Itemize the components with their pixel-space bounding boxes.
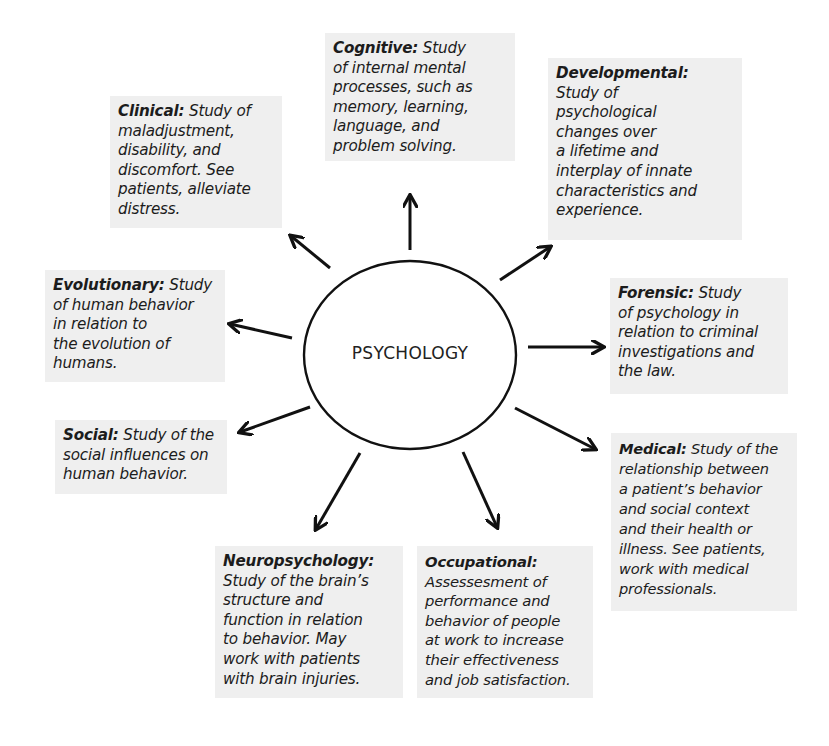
branch-text: relationship between xyxy=(619,459,789,479)
branch-term: Evolutionary: xyxy=(53,276,165,294)
branch-text: experience. xyxy=(556,201,734,221)
branch-term: Developmental: xyxy=(556,64,689,82)
branch-box-neuropsychology: Neuropsychology: Study of the brain’s st… xyxy=(215,546,403,698)
branch-text: of human behavior xyxy=(53,296,217,316)
branch-text: Study of the brain’s xyxy=(223,572,395,592)
branch-text: the law. xyxy=(618,362,780,382)
branch-box-occupational: Occupational: Assessesment of performanc… xyxy=(417,546,593,698)
branch-text: psychological xyxy=(556,103,734,123)
branch-text: social influences on xyxy=(63,446,219,466)
branch-text: the evolution of xyxy=(53,335,217,355)
arrow-to-clinical xyxy=(291,236,330,268)
center-label: PSYCHOLOGY xyxy=(310,343,510,363)
branch-text: distress. xyxy=(118,200,274,220)
branch-text: with brain injuries. xyxy=(223,670,395,690)
branch-text: processes, such as xyxy=(333,78,507,98)
arrow-to-evolutionary xyxy=(230,324,292,338)
arrow-to-social xyxy=(240,407,310,432)
branch-text: humans. xyxy=(53,354,217,374)
branch-text: investigations and xyxy=(618,343,780,363)
branch-box-developmental: Developmental: Study of psychological ch… xyxy=(548,58,742,240)
branch-term: Occupational: xyxy=(425,553,537,570)
branch-text: a patient’s behavior xyxy=(619,479,789,499)
branch-term: Neuropsychology: xyxy=(223,552,374,570)
branch-box-social: Social: Study of the social influences o… xyxy=(55,420,227,494)
branch-box-cognitive: Cognitive: Study of internal mental proc… xyxy=(325,33,515,161)
branch-text: Study of the xyxy=(687,440,778,457)
branch-text: human behavior. xyxy=(63,465,219,485)
branch-text: Study xyxy=(694,284,741,302)
branch-text: of internal mental xyxy=(333,59,507,79)
branch-text: relation to criminal xyxy=(618,323,780,343)
branch-box-clinical: Clinical: Study of maladjustment, disabi… xyxy=(110,96,282,228)
branch-text: work with medical xyxy=(619,559,789,579)
branch-text: patients, alleviate xyxy=(118,180,274,200)
branch-text: Study of the xyxy=(119,426,214,444)
branch-text: work with patients xyxy=(223,650,395,670)
branch-text: performance and xyxy=(425,591,585,611)
branch-text: problem solving. xyxy=(333,137,507,157)
branch-text: a lifetime and xyxy=(556,142,734,162)
branch-term: Medical: xyxy=(619,440,687,457)
branch-text: of psychology in xyxy=(618,304,780,324)
branch-text: at work to increase xyxy=(425,630,585,650)
branch-text: Assessesment of xyxy=(425,572,585,592)
branch-text: changes over xyxy=(556,123,734,143)
branch-text: professionals. xyxy=(619,579,789,599)
branch-text: maladjustment, xyxy=(118,122,274,142)
branch-text: in relation to xyxy=(53,315,217,335)
branch-text: and job satisfaction. xyxy=(425,670,585,690)
branch-text: Study xyxy=(165,276,212,294)
branch-text: Study of xyxy=(184,102,250,120)
branch-text: Study xyxy=(418,39,465,57)
branch-text: discomfort. See xyxy=(118,161,274,181)
branch-term: Forensic: xyxy=(618,284,694,302)
arrow-to-occupational xyxy=(463,452,497,527)
branch-term: Clinical: xyxy=(118,102,184,120)
branch-text: Study of xyxy=(556,84,734,104)
branch-text: structure and xyxy=(223,591,395,611)
branch-text: function in relation xyxy=(223,611,395,631)
branch-text: to behavior. May xyxy=(223,630,395,650)
arrow-to-medical xyxy=(515,408,595,449)
branch-term: Cognitive: xyxy=(333,39,418,57)
arrow-to-neuropsychology xyxy=(316,453,360,529)
branch-text: memory, learning, xyxy=(333,98,507,118)
branch-term: Social: xyxy=(63,426,119,444)
branch-box-forensic: Forensic: Study of psychology in relatio… xyxy=(610,278,788,394)
branch-box-medical: Medical: Study of the relationship betwe… xyxy=(611,433,797,611)
branch-text: and social context xyxy=(619,499,789,519)
branch-text: disability, and xyxy=(118,141,274,161)
branch-text: characteristics and xyxy=(556,182,734,202)
branch-text: interplay of innate xyxy=(556,162,734,182)
branch-text: and their health or xyxy=(619,519,789,539)
branch-text: illness. See patients, xyxy=(619,539,789,559)
branch-box-evolutionary: Evolutionary: Study of human behavior in… xyxy=(45,270,225,382)
branch-text: behavior of people xyxy=(425,611,585,631)
arrow-to-developmental xyxy=(500,247,550,280)
branch-text: language, and xyxy=(333,117,507,137)
branch-text: their effectiveness xyxy=(425,650,585,670)
